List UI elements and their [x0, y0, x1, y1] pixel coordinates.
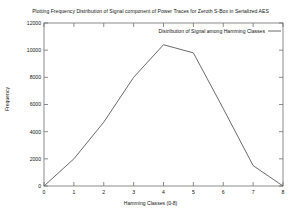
y-tick-label: 8000 [30, 74, 41, 80]
x-axis-ticks: 012345678 [43, 23, 285, 195]
y-tick-label: 0 [38, 183, 41, 189]
x-tick-label: 4 [162, 189, 165, 195]
y-tick-label: 6000 [30, 101, 41, 107]
x-tick-label: 1 [72, 189, 75, 195]
x-tick-label: 6 [222, 189, 225, 195]
x-tick-label: 5 [192, 189, 195, 195]
x-tick-label: 3 [132, 189, 135, 195]
series-line-distribution [44, 45, 283, 186]
y-axis-ticks: 020004000600080001000012000 [27, 20, 283, 189]
x-tick-label: 0 [43, 189, 46, 195]
plot-area: 020004000600080001000012000 012345678 Di… [0, 0, 301, 220]
x-tick-label: 8 [282, 189, 285, 195]
y-tick-label: 4000 [30, 129, 41, 135]
y-tick-label: 2000 [30, 156, 41, 162]
chart-container: Plotting Frequency Distribution of Signa… [0, 0, 301, 220]
legend-label: Distribution of Signal among Hamming Cla… [159, 28, 266, 34]
x-tick-label: 2 [102, 189, 105, 195]
y-tick-label: 12000 [27, 20, 41, 26]
plot-frame [44, 23, 283, 186]
x-tick-label: 7 [252, 189, 255, 195]
y-tick-label: 10000 [27, 47, 41, 53]
